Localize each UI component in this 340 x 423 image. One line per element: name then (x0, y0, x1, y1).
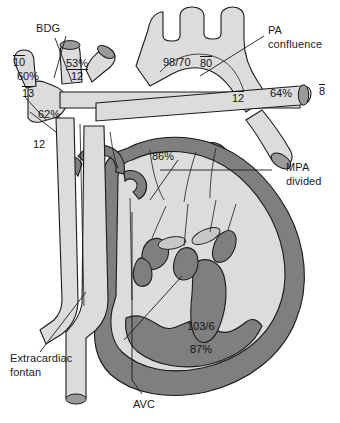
cardiac-diagram: .lumen { fill:#dcdcdc; stroke:#1a1a1a; s… (0, 0, 340, 423)
measurement-svc-mean-upper: 10 (13, 55, 25, 69)
svc-mean-lower-value: 13 (22, 86, 34, 100)
measurement-rpa-mean: 8 (319, 84, 325, 98)
measurement-svc-saturation: 60% (17, 70, 39, 82)
svc-mean-upper-value: 10 (13, 55, 25, 69)
glenn-mean-value: 12 (66, 69, 88, 82)
aorta-mean-value: 80 (200, 56, 212, 70)
label-extracardiac-line2: fontan (10, 366, 41, 379)
label-extracardiac-line1: Extracardiac (10, 352, 72, 365)
label-mpa-divided-line1: MPA (286, 161, 309, 174)
fontan-conduit-cut-end (66, 394, 86, 404)
label-avc: AVC (133, 398, 155, 411)
measurement-ventricle-saturation: 87% (190, 343, 212, 355)
lpa-mean-value: 12 (232, 91, 244, 105)
measurement-svc-mean-lower: 13 (22, 86, 34, 100)
measurement-lpa-mean: 12 (232, 91, 244, 105)
label-pa-confluence-line1: PA (268, 24, 282, 37)
rpa-mean-value: 8 (319, 84, 325, 98)
label-mpa-divided-line2: divided (286, 175, 322, 188)
measurement-aorta-mean: 80 (200, 56, 212, 70)
measurement-ventricle-pressure: 103/6 (187, 320, 215, 332)
measurement-aorta-pressure: 98/70 (163, 56, 191, 68)
measurement-fontan-mean: 12 (33, 138, 45, 150)
measurement-rpa-saturation: 64% (270, 87, 292, 99)
glenn-saturation-value: 53% (66, 57, 88, 69)
measurement-atrial-saturation: 86% (152, 150, 174, 162)
glenn-fraction: 53% 12 (66, 57, 88, 83)
measurement-glenn: 53% 12 (66, 57, 88, 83)
label-pa-confluence-line2: confluence (268, 38, 322, 51)
label-bdg: BDG (36, 22, 60, 35)
rpa-cut-end (298, 85, 308, 105)
measurement-innominate-saturation: 62% (38, 108, 60, 120)
